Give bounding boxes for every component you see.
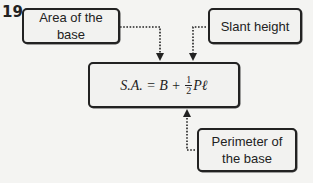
- fraction-denominator: 2: [186, 86, 191, 96]
- arrow-perimeter-to-formula: [187, 117, 195, 150]
- formula-lhs: S.A. = B +: [120, 77, 184, 94]
- formula-box: S.A. = B + 1 2 Pℓ: [88, 62, 240, 108]
- arrowhead-icon: [189, 53, 197, 61]
- arrow-slant-to-formula: [193, 27, 206, 54]
- area-of-base-box: Area of the base: [22, 8, 120, 44]
- perimeter-label-line1: Perimeter of: [212, 133, 283, 150]
- formula-tail: Pℓ: [193, 77, 207, 94]
- perimeter-label-line2: the base: [212, 150, 283, 167]
- arrowhead-icon: [156, 53, 164, 61]
- slant-height-label: Slant height: [221, 18, 290, 35]
- slant-height-box: Slant height: [208, 8, 302, 44]
- arrowhead-icon: [183, 109, 191, 117]
- arrow-area-to-formula: [120, 27, 160, 54]
- area-of-base-label: Area of the base: [24, 9, 118, 43]
- perimeter-box: Perimeter of the base: [197, 128, 297, 172]
- fraction-numerator: 1: [185, 75, 192, 86]
- fraction-one-half: 1 2: [185, 75, 192, 96]
